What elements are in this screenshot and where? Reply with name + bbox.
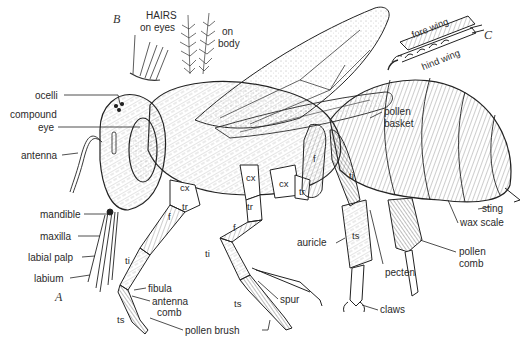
antenna xyxy=(70,136,102,193)
seg-trochanter-hind: tr xyxy=(299,186,305,197)
label-auricle: auricle xyxy=(297,237,326,248)
hairs-title: HAIRS xyxy=(146,10,177,21)
panel-letter-b: B xyxy=(113,12,120,27)
label-spur: spur xyxy=(280,294,299,305)
hairs-on-body-label-2: body xyxy=(218,38,240,49)
label-pollen-brush: pollen brush xyxy=(185,325,239,336)
label-pecten: pecten xyxy=(385,267,415,278)
seg-trochanter-front: tr xyxy=(182,201,188,212)
label-compound-eye-1: compound xyxy=(10,109,57,120)
mouthparts xyxy=(88,209,118,292)
label-compound-eye-2: eye xyxy=(38,122,54,133)
label-labial-palp: labial palp xyxy=(28,252,73,263)
label-pollen-basket-2: basket xyxy=(384,118,413,129)
honeybee-anatomy-figure: A B C HAIRS on eyes on body fore wing hi… xyxy=(0,0,528,348)
label-pollen-comb-1: pollen xyxy=(459,246,486,257)
inset-b-body-hairs xyxy=(180,13,215,74)
seg-tarsus-hind: ts xyxy=(352,230,359,241)
seg-tibia-front: ti xyxy=(125,255,130,266)
label-wax-scale: wax scale xyxy=(460,217,504,228)
far-hind-leg xyxy=(388,198,422,296)
hairs-on-eyes-label: on eyes xyxy=(140,22,175,33)
label-antenna: antenna xyxy=(21,150,57,161)
seg-tibia-mid: ti xyxy=(205,248,210,259)
label-labium: labium xyxy=(34,273,63,284)
label-ocelli: ocelli xyxy=(35,90,58,101)
seg-trochanter-mid: tr xyxy=(247,201,253,212)
label-sting: sting xyxy=(482,203,503,214)
label-claws: claws xyxy=(380,304,405,315)
seg-femur-front: f xyxy=(168,211,171,222)
abdomen xyxy=(330,78,520,202)
label-pollen-comb-2: comb xyxy=(459,258,483,269)
label-mandible: mandible xyxy=(40,209,81,220)
seg-tibia-hind: ti xyxy=(349,170,354,181)
seg-tarsus-mid: ts xyxy=(234,298,241,309)
hairs-on-body-label-1: on xyxy=(222,26,233,37)
label-maxilla: maxilla xyxy=(40,231,71,242)
seg-femur-hind: f xyxy=(313,153,316,164)
panel-letter-a: A xyxy=(55,290,62,305)
label-antenna-comb-2: comb xyxy=(157,307,181,318)
seg-tarsus-front: ts xyxy=(117,314,124,325)
label-fibula: fibula xyxy=(148,283,172,294)
head xyxy=(100,95,166,210)
seg-femur-mid: f xyxy=(233,222,236,233)
seg-coxa-front: cx xyxy=(180,182,190,193)
label-pollen-basket-1: pollen xyxy=(384,106,411,117)
inset-b-eye-hairs xyxy=(130,35,168,80)
seg-coxa-mid: cx xyxy=(246,172,256,183)
seg-coxa-hind: cx xyxy=(279,178,289,189)
panel-letter-c: C xyxy=(484,28,492,43)
compound-eye xyxy=(129,118,157,182)
label-antenna-comb-1: antenna xyxy=(152,296,188,307)
